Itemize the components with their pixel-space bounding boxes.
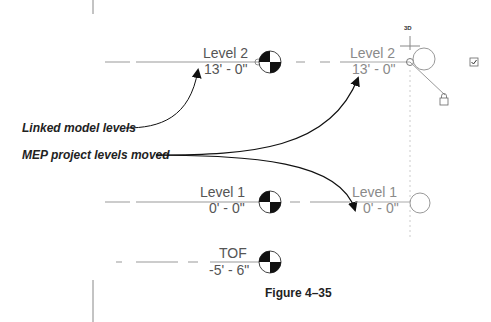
crosshair-icon[interactable] — [400, 36, 420, 240]
linked-level-2-name: Level 2 — [203, 45, 248, 61]
level-head-icon[interactable] — [259, 191, 281, 213]
project-level-2-name: Level 2 — [350, 45, 395, 61]
linked-level-1-elevation: 0' - 0" — [209, 200, 245, 216]
linked-level-2-elevation: 13' - 0" — [204, 61, 247, 77]
project-level-1-name: Level 1 — [352, 184, 397, 200]
callout-linked-levels: Linked model levels — [22, 121, 136, 135]
linked-level-1-name: Level 1 — [200, 184, 245, 200]
level-head-icon[interactable] — [259, 51, 281, 73]
level-diagram: Level 2 13' - 0" Level 2 13' - 0" 3D Lin… — [0, 0, 491, 322]
figure-caption: Figure 4–35 — [265, 286, 332, 300]
callout-mep-moved: MEP project levels moved — [22, 148, 170, 162]
tof-name: TOF — [219, 245, 247, 261]
project-level-2-head[interactable] — [413, 48, 435, 70]
lock-icon[interactable] — [440, 94, 448, 106]
project-level-1-elevation: 0' - 0" — [363, 200, 399, 216]
callout-moved-arrow-up — [156, 78, 358, 155]
checkbox-icon[interactable] — [470, 58, 478, 66]
project-level-2-elevation: 13' - 0" — [352, 61, 395, 77]
level-head-icon[interactable] — [259, 251, 281, 273]
tof-elevation: -5' - 6" — [209, 262, 249, 278]
project-level-1-head[interactable] — [410, 193, 430, 213]
view-label-3d: 3D — [404, 25, 412, 31]
callout-linked-arrow — [126, 70, 198, 128]
